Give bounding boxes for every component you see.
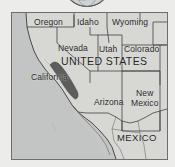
state-label-new-mexico-line2: Mexico	[131, 98, 159, 108]
state-label-utah: Utah	[99, 45, 117, 54]
state-label-new-mexico: New Mexico	[131, 89, 159, 109]
country-label-united-states: UNITED STATES	[61, 56, 147, 67]
state-label-nevada: Nevada	[58, 44, 88, 53]
map-canvas: Oregon Idaho Wyoming Nevada Utah Colorad…	[11, 12, 168, 160]
state-label-idaho: Idaho	[77, 18, 99, 27]
country-label-mexico: MEXICO	[117, 133, 157, 143]
state-label-california: California	[31, 73, 68, 82]
state-label-colorado: Colorado	[124, 45, 159, 54]
map-thumbnail: Oregon Idaho Wyoming Nevada Utah Colorad…	[0, 0, 175, 167]
state-label-wyoming: Wyoming	[112, 18, 148, 27]
state-label-new-mexico-line1: New	[136, 88, 153, 98]
state-label-oregon: Oregon	[34, 18, 63, 27]
state-label-arizona: Arizona	[94, 98, 124, 107]
